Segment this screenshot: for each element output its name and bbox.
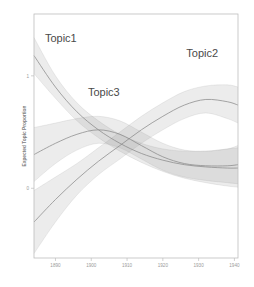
chart-page: 189019001910192019301940 01 Expected Top…: [0, 0, 254, 287]
topic-label-topic2: Topic2: [186, 47, 218, 59]
x-tick-label: 1890: [50, 263, 61, 268]
topic-label-topic1: Topic1: [45, 32, 77, 44]
y-axis-title: Expected Topic Proportion: [22, 105, 27, 166]
x-tick-label: 1900: [86, 263, 97, 268]
x-tick-label: 1930: [194, 263, 205, 268]
x-tick-label: 1920: [158, 263, 169, 268]
y-tick-label: 0: [26, 186, 29, 191]
topic-proportion-chart: 189019001910192019301940 01 Expected Top…: [0, 0, 254, 287]
x-tick-label: 1910: [122, 263, 133, 268]
topic-label-topic3: Topic3: [88, 86, 120, 98]
x-tick-label: 1940: [229, 263, 240, 268]
y-tick-label: 1: [26, 74, 29, 79]
